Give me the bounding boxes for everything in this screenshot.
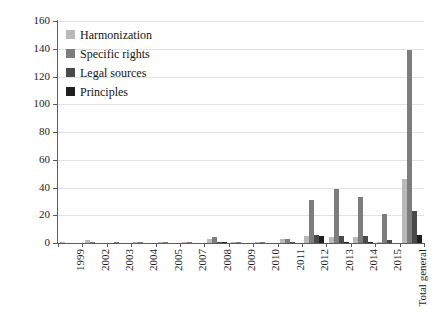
bar xyxy=(319,236,324,243)
legend-swatch-icon xyxy=(66,49,75,58)
x-axis-line xyxy=(57,243,425,244)
legend-swatch-icon xyxy=(66,87,75,96)
bar-group xyxy=(182,21,202,243)
x-tick-mark xyxy=(204,243,205,247)
y-tick-mark xyxy=(53,215,57,216)
y-tick-mark xyxy=(53,188,57,189)
y-tick-label: 0 xyxy=(0,237,50,248)
bar-chart: 020406080100120140160 199920022003200420… xyxy=(0,0,432,331)
x-tick-mark xyxy=(229,243,230,247)
bar-group xyxy=(304,21,324,243)
legend-label: Harmonization xyxy=(80,29,152,41)
x-tick-mark xyxy=(253,243,254,247)
x-tick-mark xyxy=(156,243,157,247)
legend-swatch-icon xyxy=(66,30,75,39)
bar-group xyxy=(402,21,422,243)
legend-swatch-icon xyxy=(66,68,75,77)
x-tick-mark xyxy=(58,243,59,247)
bar-group xyxy=(255,21,275,243)
bar-group xyxy=(158,21,178,243)
y-tick-label: 100 xyxy=(0,98,50,109)
y-tick-label: 160 xyxy=(0,15,50,26)
x-tick-label: 2012 xyxy=(319,249,330,271)
bar-group xyxy=(377,21,397,243)
x-tick-label: 2004 xyxy=(148,249,159,271)
x-tick-label: 2009 xyxy=(246,249,257,271)
bar xyxy=(334,189,339,243)
y-tick-label: 120 xyxy=(0,71,50,82)
legend-item: Legal sources xyxy=(66,64,152,81)
y-tick-label: 40 xyxy=(0,182,50,193)
legend-label: Legal sources xyxy=(80,67,146,79)
x-tick-mark xyxy=(180,243,181,247)
y-tick-label: 60 xyxy=(0,154,50,165)
bar-group xyxy=(207,21,227,243)
legend-item: Principles xyxy=(66,83,152,100)
legend-item: Harmonization xyxy=(66,26,152,43)
y-tick-label: 140 xyxy=(0,43,50,54)
x-tick-mark xyxy=(424,243,425,247)
legend-item: Specific rights xyxy=(66,45,152,62)
x-tick-mark xyxy=(107,243,108,247)
y-tick-mark xyxy=(53,132,57,133)
x-tick-label: 2011 xyxy=(295,249,306,271)
x-tick-label: 2014 xyxy=(368,249,379,271)
y-tick-mark xyxy=(53,104,57,105)
x-tick-mark xyxy=(131,243,132,247)
x-tick-mark xyxy=(326,243,327,247)
x-tick-label: 2007 xyxy=(197,249,208,271)
y-tick-mark xyxy=(53,243,57,244)
x-tick-label: 1999 xyxy=(75,249,86,271)
x-tick-label: 2005 xyxy=(173,249,184,271)
x-tick-mark xyxy=(302,243,303,247)
chart-legend: HarmonizationSpecific rightsLegal source… xyxy=(66,26,152,102)
bar-group xyxy=(329,21,349,243)
y-tick-label: 80 xyxy=(0,126,50,137)
x-tick-label: 2013 xyxy=(344,249,355,271)
legend-label: Specific rights xyxy=(80,48,150,60)
bar-group xyxy=(280,21,300,243)
x-tick-label: 2010 xyxy=(270,249,281,271)
x-tick-mark xyxy=(400,243,401,247)
x-tick-label: Total general xyxy=(417,249,428,307)
x-tick-mark xyxy=(375,243,376,247)
y-tick-mark xyxy=(53,160,57,161)
x-tick-label: 2003 xyxy=(124,249,135,271)
x-tick-label: 2002 xyxy=(100,249,111,271)
y-tick-label: 20 xyxy=(0,209,50,220)
x-tick-label: 2015 xyxy=(392,249,403,271)
x-tick-label: 2008 xyxy=(222,249,233,271)
y-tick-mark xyxy=(53,21,57,22)
x-tick-mark xyxy=(351,243,352,247)
y-axis-line xyxy=(57,20,58,244)
bar xyxy=(382,214,387,243)
bar xyxy=(417,235,422,243)
y-tick-mark xyxy=(53,49,57,50)
bar-group xyxy=(353,21,373,243)
x-tick-mark xyxy=(82,243,83,247)
x-tick-mark xyxy=(278,243,279,247)
legend-label: Principles xyxy=(80,86,128,98)
y-tick-mark xyxy=(53,77,57,78)
bar-group xyxy=(231,21,251,243)
